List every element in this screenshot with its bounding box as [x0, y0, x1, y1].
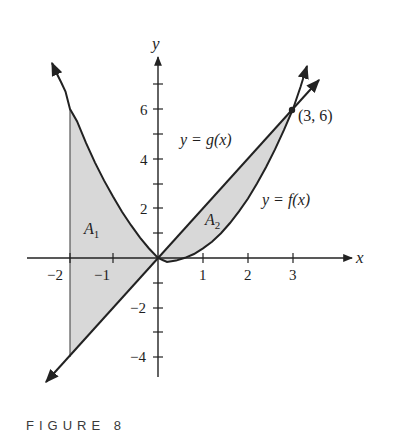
x-tick-label-2: 2: [244, 267, 252, 283]
y-tick-label-6: 6: [140, 102, 148, 118]
figure-plot: y x −2 −1 1 2 3 6 4 2 −2 −4 y = g(x) y =…: [0, 0, 393, 440]
y-tick-label-4: 4: [140, 152, 148, 168]
label-point: (3, 6): [298, 107, 333, 125]
x-tick-label-m2: −2: [47, 267, 63, 283]
x-tick-label-3: 3: [289, 267, 297, 283]
y-tick-label-m4: −4: [130, 349, 146, 365]
intersection-point: [289, 107, 295, 113]
x-axis-label: x: [355, 248, 364, 267]
label-f: y = f(x): [260, 191, 310, 209]
y-tick-label-2: 2: [140, 201, 148, 217]
y-tick-label-m2: −2: [130, 300, 146, 316]
x-tick-label-1: 1: [199, 267, 207, 283]
figure-caption: FIGURE 8: [26, 418, 126, 433]
x-tick-label-m1: −1: [94, 267, 110, 283]
label-g: y = g(x): [178, 131, 232, 149]
y-axis-label: y: [150, 34, 160, 53]
